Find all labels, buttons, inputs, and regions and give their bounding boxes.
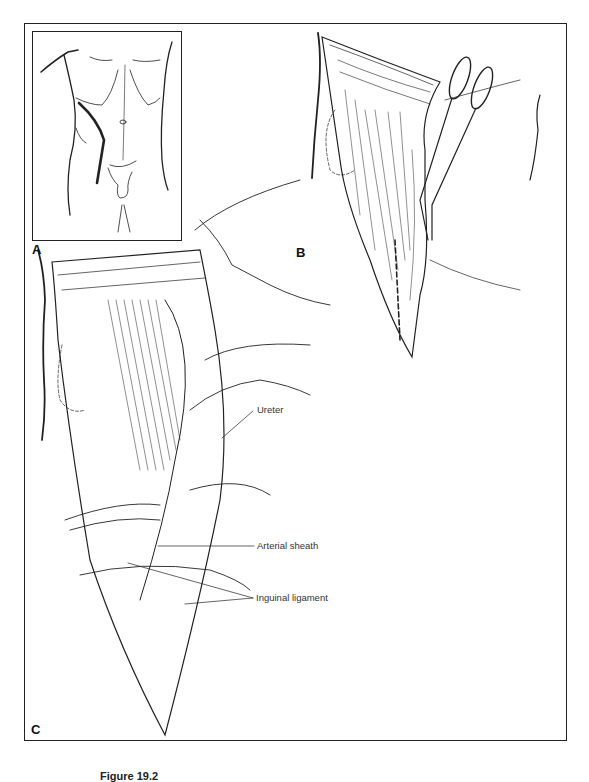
inguinal-ligament-leader-line-2 [185, 598, 253, 604]
label-arterial-sheath: Arterial sheath [257, 540, 318, 551]
panel-a-torso-drawing [41, 42, 172, 232]
panel-b-drawing [312, 33, 540, 357]
label-inguinal-ligament: Inguinal ligament [256, 592, 328, 603]
panel-label-c: C [31, 722, 40, 737]
panel-c-drawing [38, 180, 330, 735]
label-ureter: Ureter [257, 404, 283, 415]
ureter-leader-line [222, 411, 253, 438]
inguinal-ligament-leader-line-1 [128, 563, 253, 598]
figure-caption: Figure 19.2 [100, 770, 158, 782]
panel-label-a: A [32, 242, 41, 257]
panel-label-b: B [296, 245, 305, 260]
